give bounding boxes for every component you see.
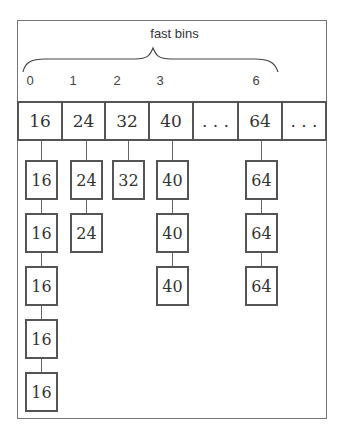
chunk-node: 64	[245, 266, 278, 306]
link-line	[41, 253, 42, 266]
link-line	[261, 253, 262, 266]
link-line	[172, 141, 173, 160]
chunk-node: 32	[112, 160, 145, 200]
link-line	[172, 200, 173, 213]
chunk-node: 40	[156, 266, 189, 306]
link-line	[86, 200, 87, 213]
link-line	[261, 141, 262, 160]
link-line	[128, 141, 129, 160]
bin-cell: 32	[104, 101, 150, 141]
bin-cell: . . .	[192, 101, 239, 141]
chunk-node: 24	[70, 160, 103, 200]
chunk-node: 16	[25, 319, 58, 359]
chunk-node: 64	[245, 160, 278, 200]
bin-cell: . . .	[281, 101, 327, 141]
bin-index-1: 1	[63, 73, 83, 88]
link-line	[41, 359, 42, 372]
link-line	[172, 253, 173, 266]
chunk-node: 16	[25, 213, 58, 253]
chunk-node: 24	[70, 213, 103, 253]
link-line	[41, 141, 42, 160]
chunk-node: 16	[25, 160, 58, 200]
bin-index-2: 2	[107, 73, 127, 88]
link-line	[41, 200, 42, 213]
link-line	[86, 141, 87, 160]
bin-cell: 64	[237, 101, 283, 141]
link-line	[261, 200, 262, 213]
brace-icon	[0, 0, 344, 100]
link-line	[41, 306, 42, 319]
bin-cell: 40	[148, 101, 194, 141]
chunk-node: 16	[25, 372, 58, 412]
bin-cell: 24	[61, 101, 106, 141]
bin-index-3: 3	[150, 73, 170, 88]
chunk-node: 16	[25, 266, 58, 306]
chunk-node: 40	[156, 213, 189, 253]
bin-cell: 16	[17, 101, 63, 141]
bin-index-6: 6	[246, 73, 266, 88]
chunk-node: 40	[156, 160, 189, 200]
chunk-node: 64	[245, 213, 278, 253]
bin-index-0: 0	[20, 73, 40, 88]
